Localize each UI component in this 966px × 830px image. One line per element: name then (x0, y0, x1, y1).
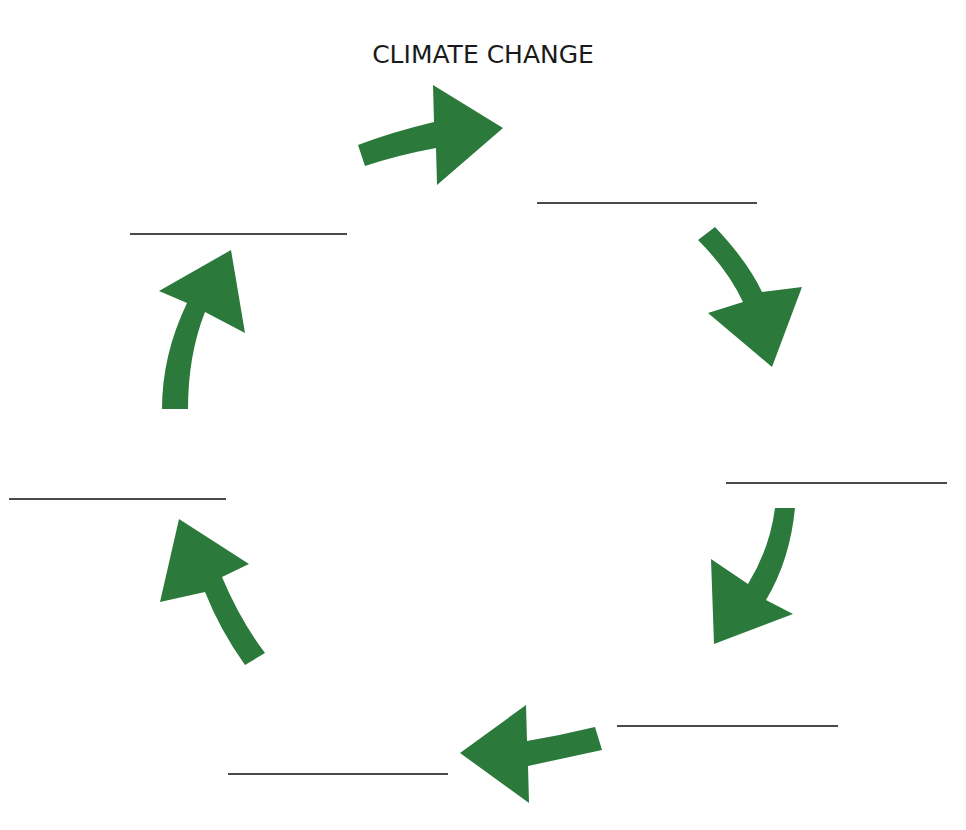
arrow-up-right-icon (159, 250, 245, 409)
cycle-diagram (0, 0, 966, 830)
arrow-down-right-icon (698, 227, 802, 367)
arrow-up-left-icon (160, 519, 265, 665)
arrow-right-icon (358, 85, 503, 185)
arrow-left-icon (460, 705, 602, 803)
arrow-down-left-icon (711, 508, 795, 644)
